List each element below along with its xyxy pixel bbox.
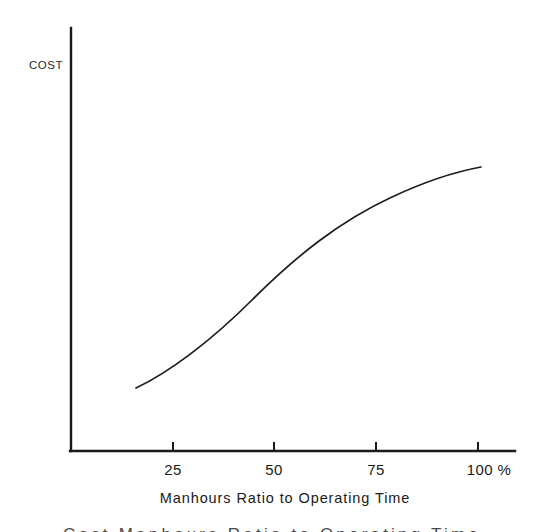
bottom-cropped-caption: Cost Manhours Ratio to Operating Time [0, 525, 544, 532]
x-tick-label-50: 50 [265, 461, 283, 478]
x-axis-title: Manhours Ratio to Operating Time [160, 490, 410, 506]
figure-canvas: COST 25 50 75 100 % Manhours Ratio to Op… [0, 0, 544, 532]
x-tick-label-100: 100 % [467, 461, 512, 478]
x-tick-label-25: 25 [164, 461, 182, 478]
cost-vs-manhours-line-chart: COST 25 50 75 100 % Manhours Ratio to Op… [0, 0, 544, 532]
x-tick-label-75: 75 [367, 461, 385, 478]
y-axis-label: COST [29, 59, 63, 71]
cost-curve [136, 167, 481, 388]
